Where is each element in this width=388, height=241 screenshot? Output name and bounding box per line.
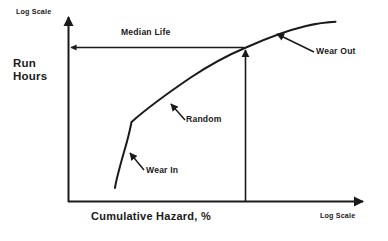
- y-axis-title: RunHours: [13, 57, 47, 83]
- y-axis-title-line-2: Hours: [13, 70, 47, 82]
- median-life-label: Median Life: [121, 28, 170, 38]
- x-axis-title: Cumulative Hazard, %: [91, 210, 211, 222]
- wear-out-leader-arrow: [277, 34, 314, 52]
- random-label: Random: [186, 115, 222, 125]
- y-axis-scale-label: Log Scale: [16, 8, 51, 16]
- wear-out-label: Wear Out: [316, 47, 356, 57]
- wear-in-leader-arrow: [130, 153, 144, 170]
- cumulative-hazard-figure: Log Scale RunHours Median Life Random We…: [0, 0, 388, 241]
- random-leader-arrow: [171, 104, 185, 120]
- y-axis-title-line-1: Run: [13, 57, 36, 69]
- x-axis-scale-label: Log Scale: [320, 212, 355, 220]
- wear-in-label: Wear In: [146, 166, 178, 176]
